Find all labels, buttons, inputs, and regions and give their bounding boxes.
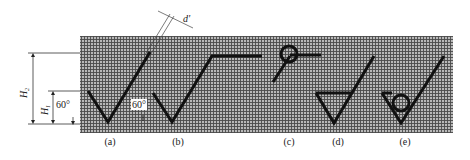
angle-label-a: 60° — [132, 99, 146, 110]
caption-a: (a) — [104, 136, 115, 148]
h2-label: H2 — [18, 88, 30, 99]
h1-label: H1 — [39, 105, 51, 116]
caption-b: (b) — [172, 136, 184, 148]
caption-c: (c) — [283, 136, 294, 148]
surface-roughness-symbol-diagram: H2 H1 60° d' 60° (a) (b) (c) (d) (e) — [0, 0, 470, 160]
caption-d: (d) — [332, 136, 344, 148]
d-prime-label: d' — [183, 13, 191, 24]
dimension-h2 — [28, 53, 80, 124]
angle-label-left: 60° — [56, 99, 70, 110]
caption-e: (e) — [399, 136, 410, 148]
